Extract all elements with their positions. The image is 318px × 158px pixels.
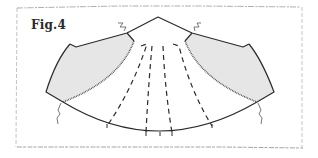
hem-ticks	[107, 124, 212, 136]
figure-canvas: Fig.4	[0, 0, 318, 158]
left-shaded-panel	[46, 31, 134, 102]
figure-label: Fig.4	[31, 18, 66, 32]
